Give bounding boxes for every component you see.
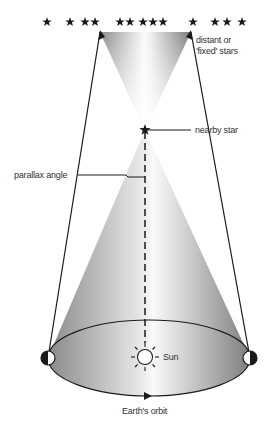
star-icon [115,17,125,26]
star-icon [65,17,75,26]
star-icon [210,17,220,26]
star-icon [188,17,198,26]
sun-label: Sun [163,352,178,362]
nearby-star-label: nearby star [195,125,238,135]
distant-stars-row [42,17,247,26]
star-icon [42,17,52,26]
distant-stars-label-line1: distant or [196,35,231,45]
earth-left-icon [41,351,55,365]
earth-right-icon [243,351,257,365]
parallax-angle-label: parallax angle [14,170,67,180]
star-icon [222,17,232,26]
star-icon [90,17,100,26]
parallax-diagram [0,0,270,423]
star-icon [125,17,135,26]
star-icon [158,17,168,26]
star-icon [237,17,247,26]
earth-orbit-label: Earth's orbit [122,406,167,416]
distant-stars-label-line2: 'fixed' stars [196,46,238,56]
star-icon [148,17,158,26]
star-icon [80,17,90,26]
upper-sight-cone [100,32,191,130]
star-icon [138,17,148,26]
